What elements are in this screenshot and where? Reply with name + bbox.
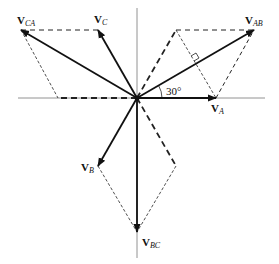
label-vb: VB (81, 161, 94, 175)
label-vca: VCA (17, 14, 35, 28)
label-vab: VAB (245, 14, 263, 28)
label-vbc: VBC (142, 236, 161, 250)
phasor-svg: 30° VCA VC VAB VA VB VBC (0, 0, 279, 264)
label-va: VA (211, 102, 224, 116)
vbc-right-dashed (137, 166, 176, 232)
angle-arc (159, 86, 162, 99)
vector-vb (98, 98, 137, 166)
origin-dot (135, 96, 140, 101)
neg-vc-dashed (137, 98, 176, 166)
vector-vc (98, 30, 137, 98)
vector-vca (21, 30, 137, 98)
phasor-diagram: 30° VCA VC VAB VA VB VBC (0, 0, 279, 264)
vbc-left-dashed (98, 166, 137, 232)
label-vc: VC (94, 13, 108, 27)
angle-label: 30° (166, 85, 181, 97)
vector-vab (137, 30, 254, 98)
